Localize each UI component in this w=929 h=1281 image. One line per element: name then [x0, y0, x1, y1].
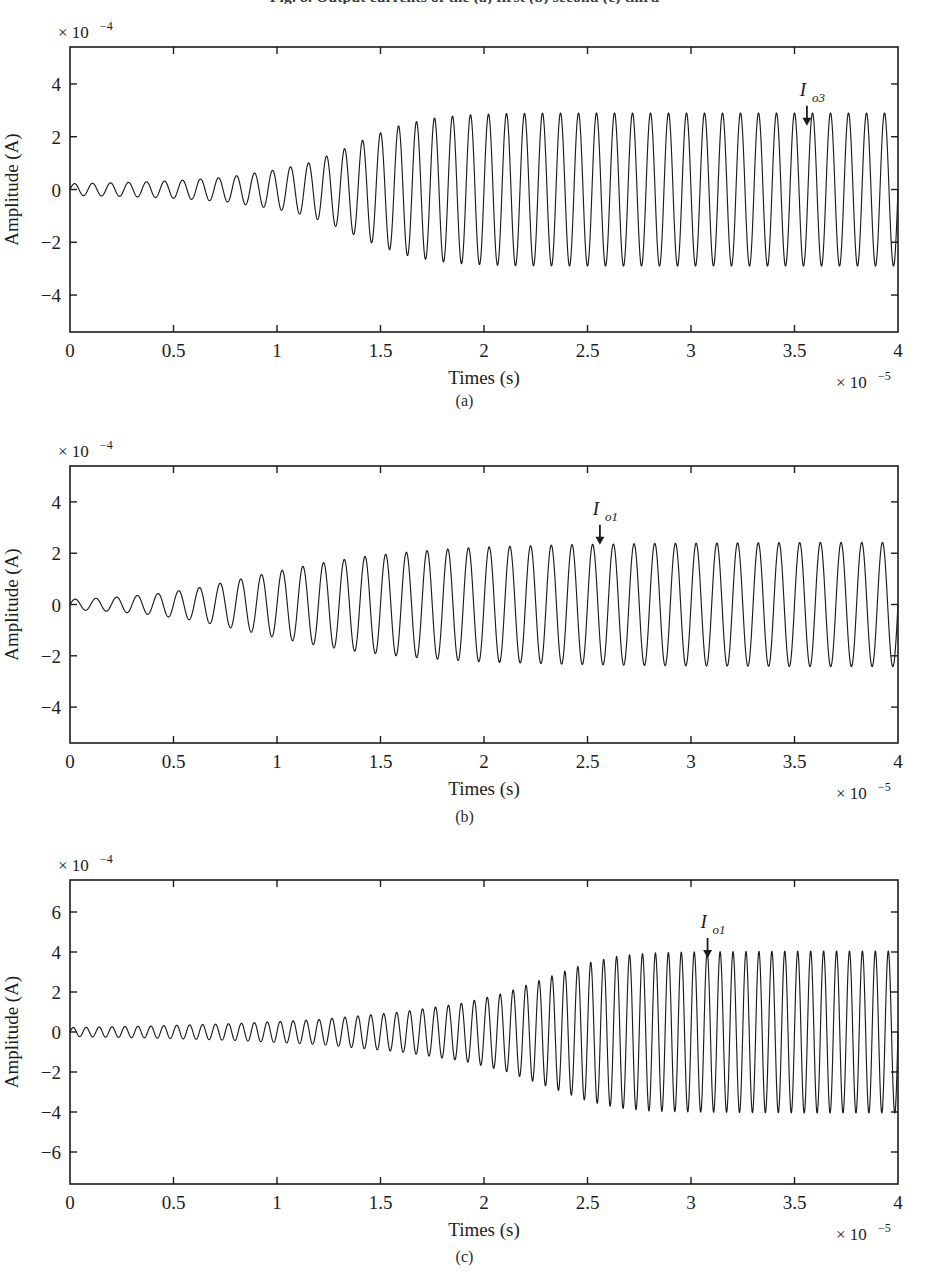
x-axis-label: Times (s) — [448, 367, 520, 389]
x-axis-multiplier: × 10−5 — [836, 1221, 891, 1244]
svg-text:−5: −5 — [878, 780, 891, 794]
x-tick-label: 3 — [686, 751, 696, 772]
x-axis-multiplier: × 10−5 — [836, 780, 891, 803]
waveform-trace — [70, 951, 898, 1113]
y-axis-label: Amplitude (A) — [1, 548, 23, 660]
x-tick-label: 1.5 — [369, 1192, 393, 1213]
x-tick-label: 4 — [893, 751, 903, 772]
plot-panel-a: 00.511.522.533.54−4−2024× 10−4× 10−5Time… — [0, 0, 929, 392]
x-tick-label: 3.5 — [783, 751, 807, 772]
x-tick-label: 1 — [272, 340, 282, 361]
x-tick-label: 3.5 — [783, 1192, 807, 1213]
x-tick-label: 2.5 — [576, 751, 600, 772]
x-tick-label: 1.5 — [369, 751, 393, 772]
y-axis-multiplier: × 10−4 — [58, 19, 113, 42]
x-tick-label: 3 — [686, 340, 696, 361]
plot-panel-b: 00.511.522.533.54−4−2024× 10−4× 10−5Time… — [0, 418, 929, 808]
x-tick-label: 3 — [686, 1192, 696, 1213]
annotation-subscript: o1 — [713, 922, 726, 937]
svg-text:−5: −5 — [878, 1221, 891, 1235]
x-tick-label: 0.5 — [162, 340, 186, 361]
y-tick-label: 6 — [52, 902, 62, 923]
y-tick-label: 0 — [52, 180, 62, 201]
x-tick-label: 2.5 — [576, 340, 600, 361]
svg-text:× 10: × 10 — [58, 856, 89, 875]
svg-text:−4: −4 — [100, 438, 113, 452]
annotation-arrow-head — [703, 950, 712, 958]
y-tick-label: 0 — [52, 1022, 62, 1043]
subcaption-c: (c) — [0, 1248, 929, 1266]
x-tick-label: 1.5 — [369, 340, 393, 361]
y-tick-label: −6 — [41, 1142, 61, 1163]
y-tick-label: 4 — [52, 492, 62, 513]
svg-text:× 10: × 10 — [836, 373, 867, 392]
svg-text:× 10: × 10 — [836, 784, 867, 803]
svg-text:−5: −5 — [878, 369, 891, 383]
waveform-annotation: Io3 — [799, 79, 826, 126]
svg-text:× 10: × 10 — [836, 1225, 867, 1244]
y-tick-label: −4 — [41, 285, 62, 306]
annotation-subscript: o3 — [812, 90, 826, 105]
annotation-symbol: I — [799, 79, 808, 100]
y-tick-label: −2 — [41, 232, 61, 253]
y-tick-label: −2 — [41, 646, 61, 667]
x-tick-label: 0 — [65, 751, 75, 772]
y-tick-label: 0 — [52, 595, 62, 616]
y-tick-label: 2 — [52, 127, 62, 148]
x-tick-label: 2 — [479, 751, 489, 772]
y-tick-label: 2 — [52, 982, 62, 1003]
y-axis-label: Amplitude (A) — [1, 133, 23, 245]
figure-page: Fig. 8. Output currents of the (a) first… — [0, 0, 929, 1281]
annotation-subscript: o1 — [605, 509, 618, 524]
waveform-trace — [70, 542, 898, 666]
y-tick-label: −4 — [41, 1102, 62, 1123]
x-tick-label: 0 — [65, 340, 75, 361]
x-tick-label: 0.5 — [162, 1192, 186, 1213]
x-tick-label: 2 — [479, 1192, 489, 1213]
x-tick-label: 3.5 — [783, 340, 807, 361]
plot-panel-c: 00.511.522.533.54−6−4−20246× 10−4× 10−5T… — [0, 832, 929, 1248]
x-tick-label: 2 — [479, 340, 489, 361]
x-tick-label: 0 — [65, 1192, 75, 1213]
svg-text:× 10: × 10 — [58, 23, 89, 42]
waveform-annotation: Io1 — [699, 911, 725, 958]
y-tick-label: −4 — [41, 697, 62, 718]
svg-text:−4: −4 — [100, 19, 113, 33]
x-tick-label: 1 — [272, 751, 282, 772]
y-axis-multiplier: × 10−4 — [58, 438, 113, 461]
annotation-arrow-head — [802, 118, 811, 126]
annotation-symbol: I — [699, 911, 708, 932]
svg-text:−4: −4 — [100, 852, 113, 866]
y-tick-label: 4 — [52, 74, 62, 95]
x-tick-label: 2.5 — [576, 1192, 600, 1213]
x-axis-label: Times (s) — [448, 778, 520, 800]
y-axis-label: Amplitude (A) — [1, 976, 23, 1088]
y-tick-label: −2 — [41, 1062, 61, 1083]
x-axis-label: Times (s) — [448, 1219, 520, 1241]
x-tick-label: 4 — [893, 1192, 903, 1213]
svg-text:× 10: × 10 — [58, 442, 89, 461]
waveform-trace — [70, 113, 898, 266]
y-axis-multiplier: × 10−4 — [58, 852, 113, 875]
x-tick-label: 4 — [893, 340, 903, 361]
y-tick-label: 4 — [52, 942, 62, 963]
subcaption-a: (a) — [0, 392, 929, 410]
annotation-symbol: I — [592, 498, 601, 519]
y-tick-label: 2 — [52, 543, 62, 564]
x-tick-label: 1 — [272, 1192, 282, 1213]
annotation-arrow-head — [595, 537, 604, 545]
waveform-annotation: Io1 — [592, 498, 618, 545]
x-axis-multiplier: × 10−5 — [836, 369, 891, 392]
x-tick-label: 0.5 — [162, 751, 186, 772]
subcaption-b: (b) — [0, 808, 929, 826]
